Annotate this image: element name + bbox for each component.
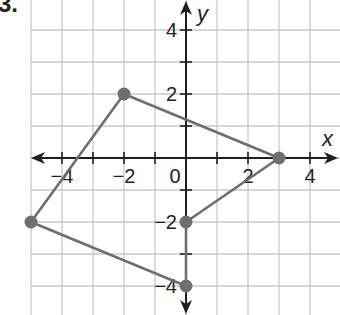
vertex-point <box>180 216 193 229</box>
vertex-point <box>118 88 131 101</box>
x-tick-label: 0 <box>169 165 180 187</box>
y-tick-label: 4 <box>166 19 177 41</box>
vertex-point <box>273 152 286 165</box>
x-tick-label: −2 <box>113 165 136 187</box>
coordinate-plane: −4−202442−2−4xy <box>0 0 340 315</box>
vertex-point <box>180 280 193 293</box>
y-tick-label: −2 <box>154 211 177 233</box>
x-axis-label: x <box>321 126 334 151</box>
y-tick-label: 2 <box>166 83 177 105</box>
vertex-point <box>25 216 38 229</box>
x-tick-label: 4 <box>304 165 315 187</box>
y-axis-label: y <box>195 1 210 26</box>
